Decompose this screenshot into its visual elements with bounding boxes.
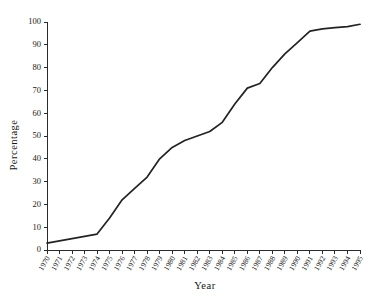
- y-tick-label: 100: [28, 16, 41, 26]
- y-tick-label: 90: [33, 39, 42, 49]
- y-tick-label: 20: [33, 199, 42, 209]
- y-tick-label: 30: [33, 176, 42, 186]
- y-tick-label: 10: [33, 222, 42, 232]
- y-tick-label: 40: [33, 153, 42, 163]
- y-axis-title: Percentage: [8, 119, 19, 170]
- y-tick-label: 70: [33, 85, 42, 95]
- y-tick-label: 60: [33, 108, 42, 118]
- y-tick-label: 80: [33, 62, 42, 72]
- y-tick-label: 50: [33, 130, 42, 140]
- line-chart: 0102030405060708090100 19701971197219731…: [0, 0, 381, 300]
- x-axis-title: Year: [194, 280, 215, 291]
- y-tick-label: 0: [37, 244, 41, 254]
- chart-figure: 0102030405060708090100 19701971197219731…: [0, 0, 381, 300]
